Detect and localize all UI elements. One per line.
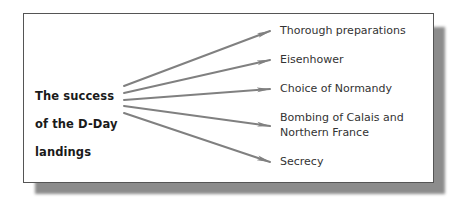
factor-choice-of-normandy: Choice of Normandy [280, 81, 392, 96]
source-label-line: of the D-Day [35, 117, 118, 131]
source-label-line: The success [35, 89, 118, 103]
factor-label: Thorough preparations [280, 23, 406, 38]
factor-label: Choice of Normandy [280, 81, 392, 96]
arrow-to-bombing-of-calais [124, 106, 270, 126]
source-label: The success of the D-Day landings [35, 75, 118, 173]
factor-secrecy: Secrecy [280, 154, 323, 169]
arrow-to-choice-of-normandy [124, 89, 270, 100]
factor-eisenhower: Eisenhower [280, 52, 343, 67]
factor-label: Secrecy [280, 154, 323, 169]
arrow-to-thorough-preparations [124, 31, 270, 86]
factor-label: Eisenhower [280, 52, 343, 67]
factor-label: Northern France [280, 125, 404, 140]
factor-bombing-of-calais: Bombing of Calais and Northern France [280, 110, 404, 140]
arrow-to-secrecy [124, 113, 270, 162]
arrow-to-eisenhower [124, 60, 270, 93]
source-label-line: landings [35, 145, 118, 159]
factor-label: Bombing of Calais and [280, 110, 404, 125]
factor-thorough-preparations: Thorough preparations [280, 23, 406, 38]
